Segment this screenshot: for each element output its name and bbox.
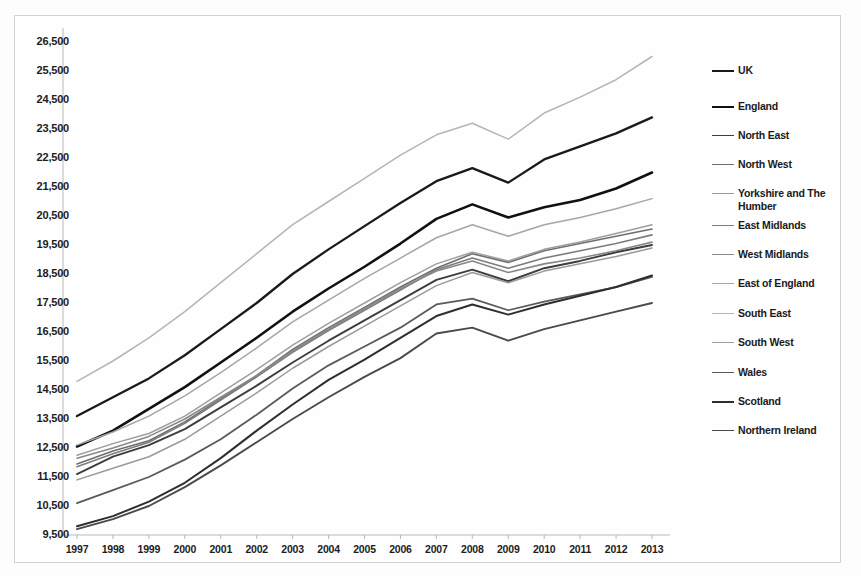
legend-color-swatch-icon xyxy=(712,225,734,226)
legend-color-swatch-icon xyxy=(712,313,734,314)
legend-item-label: East Midlands xyxy=(738,219,806,232)
x-axis-tick-label: 2007 xyxy=(416,543,456,555)
x-axis-tick-label: 2001 xyxy=(201,543,241,555)
y-axis-tick-label: 19,500 xyxy=(17,238,69,250)
series-line-yorkshire-and-the-humber xyxy=(77,248,652,480)
series-line-northern-ireland xyxy=(77,303,652,529)
legend-item-label: Wales xyxy=(738,366,767,379)
legend-item-label: South East xyxy=(738,307,791,320)
legend-item-label: South West xyxy=(738,336,794,349)
x-axis-tick-label: 2004 xyxy=(309,543,349,555)
legend-item-yorkshire-and-the-humber[interactable]: Yorkshire and The Humber xyxy=(712,187,861,212)
series-line-east-of-england xyxy=(77,199,652,446)
y-axis-tick-label: 9,500 xyxy=(17,528,69,540)
x-axis-tick-label: 2011 xyxy=(560,543,600,555)
legend-item-label: UK xyxy=(738,64,753,77)
y-axis-tick-label: 21,500 xyxy=(17,180,69,192)
legend-item-northern-ireland[interactable]: Northern Ireland xyxy=(712,424,861,437)
x-axis-tick-label: 2009 xyxy=(488,543,528,555)
y-axis-tick-label: 13,500 xyxy=(17,412,69,424)
y-axis-tick-label: 24,500 xyxy=(17,93,69,105)
legend-item-east-of-england[interactable]: East of England xyxy=(712,277,861,290)
legend-color-swatch-icon xyxy=(712,106,734,108)
legend-item-north-west[interactable]: North West xyxy=(712,158,861,171)
legend-item-label: North West xyxy=(738,158,792,171)
y-axis-tick-label: 22,500 xyxy=(17,151,69,163)
legend-color-swatch-icon xyxy=(712,254,734,255)
legend-item-wales[interactable]: Wales xyxy=(712,366,861,379)
legend-item-east-midlands[interactable]: East Midlands xyxy=(712,219,861,232)
x-axis-tick-label: 1997 xyxy=(57,543,97,555)
legend-color-swatch-icon xyxy=(712,135,734,136)
legend-item-label: England xyxy=(738,100,778,113)
legend-item-west-midlands[interactable]: West Midlands xyxy=(712,248,861,261)
x-axis-tick-label: 2012 xyxy=(596,543,636,555)
legend-color-swatch-icon xyxy=(712,342,734,343)
y-axis-tick-label: 18,500 xyxy=(17,267,69,279)
x-axis-tick-label: 2000 xyxy=(165,543,205,555)
series-line-east-midlands xyxy=(77,235,652,467)
series-line-south-east xyxy=(77,57,652,382)
y-axis-tick-label: 17,500 xyxy=(17,296,69,308)
legend-item-label: North East xyxy=(738,129,789,142)
x-axis-tick-label: 1999 xyxy=(129,543,169,555)
x-axis-tick-label: 2003 xyxy=(273,543,313,555)
x-axis-tick-label: 2005 xyxy=(345,543,385,555)
legend-color-swatch-icon xyxy=(712,283,734,284)
legend-color-swatch-icon xyxy=(712,193,734,194)
x-axis-tick-label: 2002 xyxy=(237,543,277,555)
legend-color-swatch-icon xyxy=(712,70,734,72)
y-axis-tick-label: 20,500 xyxy=(17,209,69,221)
x-axis-tick-label: 2006 xyxy=(380,543,420,555)
y-axis-tick-label: 14,500 xyxy=(17,383,69,395)
x-axis-tick-label: 1998 xyxy=(93,543,133,555)
y-axis-tick-label: 15,500 xyxy=(17,354,69,366)
x-axis-tick-label: 2013 xyxy=(632,543,672,555)
legend-item-south-east[interactable]: South East xyxy=(712,307,861,320)
legend-item-england[interactable]: England xyxy=(712,100,861,113)
legend-item-label: West Midlands xyxy=(738,248,809,261)
chart-frame: 9,50010,50011,50012,50013,50014,50015,50… xyxy=(14,15,841,563)
x-axis-tick-label: 2010 xyxy=(524,543,564,555)
y-axis-tick-label: 11,500 xyxy=(17,470,69,482)
y-axis-tick-label: 26,500 xyxy=(17,35,69,47)
y-axis-tick-label: 12,500 xyxy=(17,441,69,453)
legend-item-south-west[interactable]: South West xyxy=(712,336,861,349)
legend-color-swatch-icon xyxy=(712,372,734,373)
series-line-south-west xyxy=(77,225,652,456)
chart-container: 9,50010,50011,50012,50013,50014,50015,50… xyxy=(0,0,861,576)
y-axis-tick-label: 16,500 xyxy=(17,325,69,337)
legend-item-label: East of England xyxy=(738,277,814,290)
legend-color-swatch-icon xyxy=(712,430,734,431)
y-axis-tick-label: 23,500 xyxy=(17,122,69,134)
legend-item-scotland[interactable]: Scotland xyxy=(712,395,861,408)
legend-item-uk[interactable]: UK xyxy=(712,64,861,77)
legend-color-swatch-icon xyxy=(712,401,734,403)
legend-item-label: Yorkshire and The Humber xyxy=(738,187,861,212)
y-axis-tick-label: 25,500 xyxy=(17,64,69,76)
legend-color-swatch-icon xyxy=(712,164,734,165)
legend-item-north-east[interactable]: North East xyxy=(712,129,861,142)
y-axis-tick-label: 10,500 xyxy=(17,499,69,511)
legend-item-label: Scotland xyxy=(738,395,781,408)
x-axis-tick-label: 2008 xyxy=(452,543,492,555)
legend-item-label: Northern Ireland xyxy=(738,424,816,437)
